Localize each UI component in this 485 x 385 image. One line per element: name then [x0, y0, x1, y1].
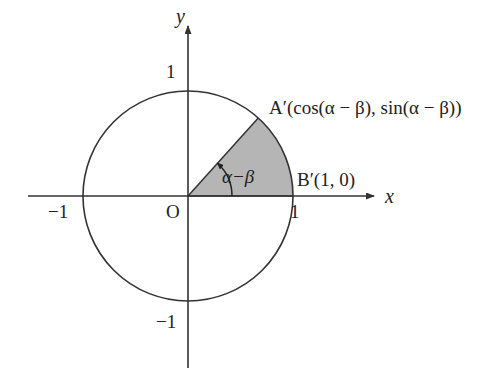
point-label-a-prime: A′(cos(α − β), sin(α − β))	[269, 98, 462, 117]
angle-label: α−β	[222, 167, 254, 186]
x-tick-label-1: 1	[290, 202, 300, 221]
y-tick-label-neg1: −1	[156, 312, 176, 331]
point-label-b-prime: B′(1, 0)	[297, 170, 355, 189]
x-axis-label: x	[385, 186, 394, 206]
x-tick-label-neg1: −1	[48, 202, 68, 221]
origin-label: O	[166, 202, 180, 221]
unit-circle-figure: y x O 1 −1 −1 1 A′(cos(α − β), sin(α − β…	[0, 0, 485, 385]
y-axis-label: y	[176, 6, 185, 26]
diagram-canvas	[0, 0, 485, 385]
y-tick-label-1: 1	[166, 62, 176, 81]
